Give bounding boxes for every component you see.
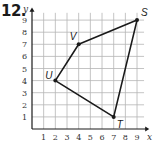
y-tick-label: 3	[22, 89, 27, 98]
y-axis-arrow-icon	[30, 7, 35, 11]
y-tick-label: 5	[22, 65, 27, 74]
x-tick-label: 2	[53, 133, 58, 142]
tick-labels: 123456789123456789xy	[22, 4, 152, 142]
point-label-U: U	[45, 70, 53, 81]
y-tick-label: 2	[22, 101, 27, 110]
point-label-V: V	[70, 31, 78, 42]
x-axis-arrow-icon	[145, 127, 149, 132]
x-tick-label: 5	[88, 133, 93, 142]
point-V	[77, 42, 81, 46]
x-tick-label: 4	[76, 133, 81, 142]
y-tick-label: 8	[22, 28, 27, 37]
x-tick-label: 7	[111, 133, 116, 142]
y-tick-label: 9	[22, 16, 27, 25]
x-tick-label: 9	[134, 133, 139, 142]
y-tick-label: 7	[22, 40, 27, 49]
x-tick-label: 3	[64, 133, 69, 142]
y-tick-label: 4	[22, 77, 27, 86]
coordinate-plane: 123456789123456789xy SVUT	[0, 0, 155, 150]
x-tick-label: 8	[123, 133, 128, 142]
x-axis-label: x	[147, 132, 152, 142]
y-tick-label: 1	[22, 113, 27, 122]
x-tick-label: 6	[99, 133, 104, 142]
y-tick-label: 6	[22, 52, 27, 61]
point-T	[112, 115, 116, 119]
x-tick-label: 1	[41, 133, 46, 142]
point-label-S: S	[141, 7, 148, 18]
point-label-T: T	[117, 119, 124, 130]
point-U	[53, 79, 57, 83]
point-S	[135, 18, 139, 22]
y-axis-label: y	[22, 4, 29, 14]
